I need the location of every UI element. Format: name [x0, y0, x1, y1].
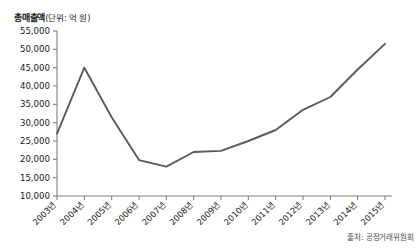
x-tick-label: 2008년 [167, 199, 195, 227]
axis-title-unit: (단위: 억 원) [45, 13, 90, 23]
x-tick-label: 2015년 [359, 199, 387, 227]
x-tick-group: 2003년2004년2005년2006년2007년2008년2009년2010년… [31, 196, 387, 227]
y-tick-label: 25,000 [20, 136, 50, 146]
y-tick-label: 15,000 [20, 173, 50, 183]
y-tick-label: 55,000 [20, 26, 50, 36]
x-tick-label: 2014년 [331, 199, 359, 227]
y-tick-label: 30,000 [20, 118, 50, 128]
y-tick-label: 10,000 [20, 191, 50, 201]
y-tick-label: 50,000 [20, 44, 50, 54]
axis-title-metric: 총매출액 [14, 13, 45, 23]
x-tick-label: 2004년 [58, 199, 86, 227]
source-note: 출처: 공정거래위원회 [347, 231, 414, 242]
chart-figure: 총매출액(단위: 억 원) 10,00015,00020,00025,00030… [0, 0, 420, 248]
x-tick-label: 2005년 [85, 199, 113, 227]
y-tick-group: 10,00015,00020,00025,00030,00035,00040,0… [20, 26, 57, 201]
x-tick-label: 2007년 [140, 199, 168, 227]
y-tick-label: 40,000 [20, 81, 50, 91]
y-tick-label: 45,000 [20, 63, 50, 73]
data-series-line-total-sales [57, 44, 385, 167]
x-tick-label: 2012년 [277, 199, 305, 227]
line-chart-plot: 10,00015,00020,00025,00030,00035,00040,0… [0, 0, 420, 248]
chart-axis-title: 총매출액(단위: 억 원) [14, 11, 90, 24]
x-tick-label: 2003년 [31, 199, 59, 227]
x-tick-label: 2010년 [222, 199, 250, 227]
x-tick-label: 2006년 [113, 199, 141, 227]
x-tick-label: 2011년 [249, 199, 277, 227]
x-tick-label: 2013년 [304, 199, 332, 227]
y-tick-label: 35,000 [20, 99, 50, 109]
x-tick-label: 2009년 [195, 199, 223, 227]
y-tick-label: 20,000 [20, 154, 50, 164]
